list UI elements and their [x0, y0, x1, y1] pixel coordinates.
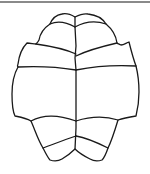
- midline-seam: [75, 17, 76, 149]
- humeral-seam-right: [76, 43, 117, 56]
- pectoral-seam-right: [76, 66, 136, 70]
- humeral-seam-left: [36, 44, 76, 54]
- pectoral-seam-left: [18, 67, 76, 70]
- gular-seam-right: [75, 22, 106, 27]
- anal-seam-left: [43, 136, 76, 148]
- anal-seam-right: [76, 136, 108, 148]
- gular-seam-left: [50, 22, 75, 27]
- femoral-seam-left: [31, 116, 76, 121]
- femoral-seam-right: [76, 117, 118, 121]
- plastron-diagram: [0, 0, 150, 174]
